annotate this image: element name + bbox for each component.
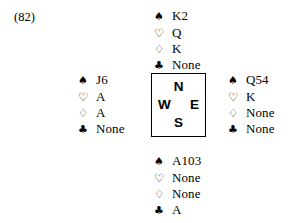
- compass-west-label: W: [158, 98, 171, 112]
- club-icon: ♣: [154, 203, 167, 219]
- east-hearts: K: [246, 89, 275, 105]
- west-diamonds: A: [96, 105, 125, 121]
- north-hearts: Q: [172, 25, 201, 41]
- hand-east: ♠ Q54 ♡ K ♢ None ♣ None: [228, 72, 275, 138]
- west-clubs: None: [96, 121, 125, 137]
- hand-west: ♠ J6 ♡ A ♢ A ♣ None: [78, 72, 125, 138]
- heart-icon: ♡: [154, 170, 167, 186]
- south-diamonds: None: [172, 186, 201, 202]
- south-hearts: None: [172, 170, 201, 186]
- north-diamonds: K: [172, 41, 201, 57]
- figure-number-label: (82): [14, 10, 35, 24]
- diamond-icon: ♢: [78, 105, 91, 121]
- east-diamonds: None: [246, 105, 275, 121]
- compass-box: N W E S: [151, 73, 206, 137]
- compass-south-label: S: [174, 116, 183, 130]
- hand-south: ♠ A103 ♡ None ♢ None ♣ A: [154, 153, 201, 219]
- spade-icon: ♠: [154, 154, 167, 170]
- north-clubs: None: [172, 57, 201, 73]
- heart-icon: ♡: [78, 89, 91, 105]
- club-icon: ♣: [78, 122, 91, 138]
- compass-north-label: N: [174, 80, 184, 94]
- south-clubs: A: [172, 202, 201, 218]
- bridge-deal-diagram: (82) ♠ K2 ♡ Q ♢ K ♣ None ♠ J6 ♡ A ♢ A ♣ …: [0, 0, 298, 223]
- south-spades: A103: [172, 153, 201, 169]
- hand-north: ♠ K2 ♡ Q ♢ K ♣ None: [154, 8, 201, 74]
- heart-icon: ♡: [154, 25, 167, 41]
- diamond-icon: ♢: [154, 41, 167, 57]
- west-hearts: A: [96, 89, 125, 105]
- compass-east-label: E: [190, 98, 199, 112]
- north-spades: K2: [172, 8, 201, 24]
- heart-icon: ♡: [228, 89, 241, 105]
- diamond-icon: ♢: [154, 186, 167, 202]
- club-icon: ♣: [228, 122, 241, 138]
- east-clubs: None: [246, 121, 275, 137]
- spade-icon: ♠: [78, 73, 91, 89]
- spade-icon: ♠: [228, 73, 241, 89]
- west-spades: J6: [96, 72, 125, 88]
- club-icon: ♣: [154, 58, 167, 74]
- diamond-icon: ♢: [228, 105, 241, 121]
- east-spades: Q54: [246, 72, 275, 88]
- spade-icon: ♠: [154, 9, 167, 25]
